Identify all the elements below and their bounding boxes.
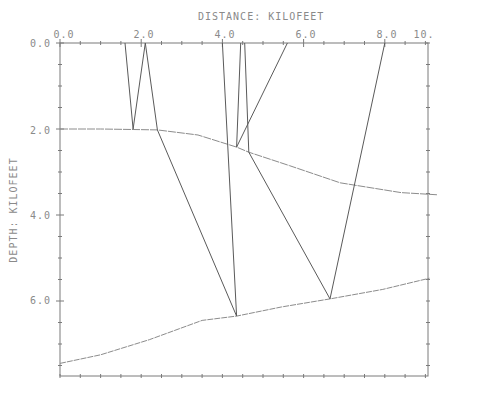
y-tick-label: 4.0: [30, 211, 51, 221]
x-tick-label: 2.0: [133, 30, 154, 40]
axis-ticks: [56, 39, 430, 378]
reflector-horizons: [60, 129, 438, 363]
ray-path: [237, 43, 288, 147]
x-tick-label: 10.: [413, 30, 434, 40]
x-axis-title: DISTANCE: KILOFEET: [198, 12, 324, 22]
reflector-1: [60, 129, 438, 195]
y-tick-label: 2.0: [30, 126, 51, 136]
x-tick-label: 6.0: [295, 30, 316, 40]
x-tick-label: 0.0: [53, 30, 74, 40]
y-axis-title: DEPTH: KILOFEET: [9, 157, 19, 262]
seismic-ray-plot: [0, 0, 487, 396]
y-tick-label: 6.0: [30, 296, 51, 306]
x-tick-label: 4.0: [214, 30, 235, 40]
x-tick-label: 8.0: [376, 30, 397, 40]
plot-frame: [60, 43, 428, 376]
axis-frame: [60, 43, 428, 376]
ray-path: [125, 43, 237, 316]
y-tick-label: 0.0: [30, 39, 51, 49]
reflector-2: [60, 278, 430, 363]
ray-paths: [125, 43, 385, 316]
ray-path: [245, 43, 385, 299]
